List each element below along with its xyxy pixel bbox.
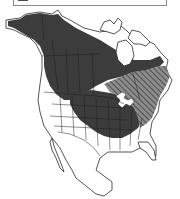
range-map	[0, 0, 180, 199]
